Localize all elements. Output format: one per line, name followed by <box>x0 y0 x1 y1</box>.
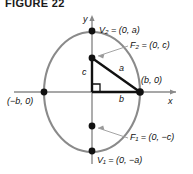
ellipse-diagram <box>0 0 193 174</box>
point-focus-top <box>89 55 96 62</box>
label-focus-top: F₂ = (0, c) <box>130 41 170 50</box>
y-axis-label: y <box>83 14 88 24</box>
label-focus-bottom: F₁ = (0, −c) <box>130 133 174 142</box>
x-axis-label: x <box>168 96 173 106</box>
label-covertex-left: (−b, 0) <box>7 97 33 106</box>
x-axis-arrow-icon <box>170 89 176 94</box>
point-covertex-left <box>41 89 48 96</box>
point-vertex-bottom <box>89 148 96 155</box>
label-hypotenuse-a: a <box>119 64 124 73</box>
leader-line-focus-top <box>98 46 128 56</box>
point-vertex-top <box>89 28 96 35</box>
label-leg-c: c <box>82 68 87 77</box>
figure-container: FIGURE 22 V₂ = (0, a) V₁ = (0, −a) F₂ = … <box>0 0 193 174</box>
point-covertex-right <box>136 88 144 96</box>
triangle-hypotenuse-a <box>92 58 140 92</box>
leader-line-focus-bottom <box>98 128 128 138</box>
label-vertex-top: V₂ = (0, a) <box>99 26 140 35</box>
point-focus-bottom <box>89 123 96 130</box>
label-vertex-bottom: V₁ = (0, −a) <box>97 156 142 165</box>
label-leg-b: b <box>119 95 124 104</box>
y-axis-arrow-icon <box>89 15 94 21</box>
label-covertex-right: (b, 0) <box>141 76 162 85</box>
